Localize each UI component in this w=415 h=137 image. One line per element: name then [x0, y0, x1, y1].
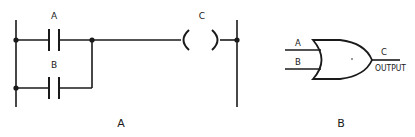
junction-dot-branch — [89, 37, 94, 42]
coil-c-label: C — [199, 11, 205, 21]
figure-a-caption: A — [117, 117, 125, 130]
diagram-canvas: A B C A A B C OUTPUT B — [0, 0, 415, 137]
junction-dot-left-top — [13, 37, 18, 42]
ladder-diagram — [16, 20, 237, 107]
or-gate-icon — [313, 40, 372, 79]
gate-center-dot — [351, 58, 353, 60]
contact-b-label: B — [51, 60, 57, 70]
junction-dots — [13, 37, 239, 90]
contact-a-label: A — [51, 11, 58, 21]
junction-dot-right — [234, 37, 239, 42]
contact-a-icon — [49, 29, 59, 51]
output-text: OUTPUT — [375, 64, 406, 73]
input-a-label: A — [295, 38, 301, 48]
output-c-label: C — [381, 47, 387, 57]
input-b-label: B — [295, 57, 301, 67]
contact-b-icon — [49, 77, 59, 99]
figure-b-caption: B — [337, 117, 345, 130]
coil-c-icon — [184, 30, 218, 50]
junction-dot-left-bottom — [13, 85, 18, 90]
or-gate-diagram — [285, 40, 400, 79]
